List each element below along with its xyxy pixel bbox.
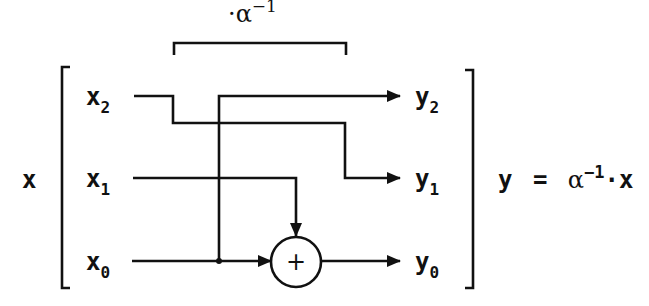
- left-bracket: [62, 67, 70, 288]
- top-bracket: [174, 43, 346, 55]
- input-x1: x1: [86, 165, 110, 199]
- multiply-by-alpha-inverse-diagram: ·α−1 x x2 x1 x0 + y2 y1 y0 y = α−1·x: [0, 0, 649, 306]
- input-vector-name: x: [22, 166, 36, 194]
- output-y1: y1: [415, 165, 439, 199]
- wire-x2-to-y1: [134, 96, 400, 178]
- junction-dot: [216, 258, 222, 264]
- equation: y = α−1·x: [498, 162, 633, 194]
- wire-x1-to-adder: [133, 178, 296, 236]
- top-label: ·α−1: [228, 0, 277, 28]
- right-bracket: [465, 70, 473, 288]
- plus-icon: +: [286, 248, 306, 276]
- output-y2: y2: [415, 83, 439, 117]
- input-x2: x2: [86, 83, 110, 117]
- input-x0: x0: [86, 248, 110, 282]
- output-y0: y0: [415, 248, 439, 282]
